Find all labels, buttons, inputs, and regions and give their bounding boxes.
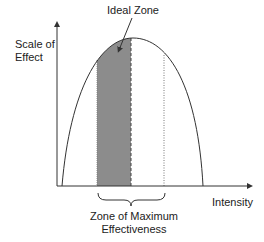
ideal-zone-shading bbox=[97, 20, 131, 186]
zone-label: Zone of Maximum Effectiveness bbox=[82, 210, 186, 236]
x-axis-label: Intensity bbox=[212, 196, 253, 209]
y-axis-label: Scale of Effect bbox=[15, 38, 55, 64]
y-axis-label-line2: Effect bbox=[15, 51, 55, 64]
zone-label-line2: Effectiveness bbox=[82, 223, 186, 236]
zone-brace-icon bbox=[98, 193, 165, 206]
ideal-zone-label: Ideal Zone bbox=[107, 4, 159, 17]
effect-curve bbox=[62, 38, 203, 186]
zone-label-line1: Zone of Maximum bbox=[82, 210, 186, 223]
y-axis-label-line1: Scale of bbox=[15, 38, 55, 51]
